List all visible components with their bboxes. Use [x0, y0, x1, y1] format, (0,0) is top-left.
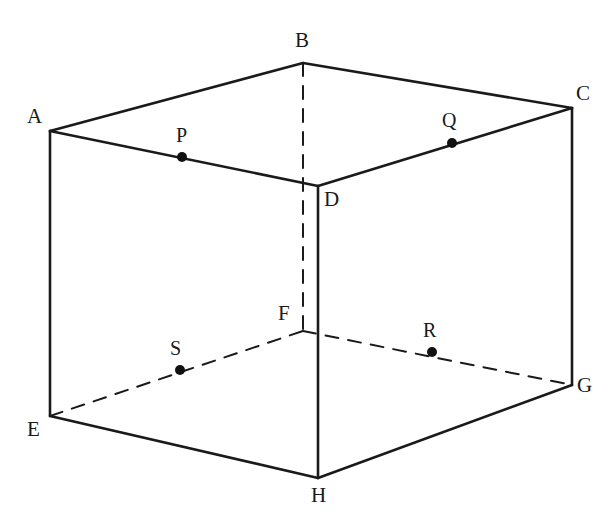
edge-FG-hidden: [303, 331, 572, 385]
point-label-P: P: [176, 125, 187, 145]
point-dot-P: [177, 152, 187, 162]
point-label-R: R: [423, 320, 436, 340]
vertex-label-H: H: [311, 485, 326, 506]
vertex-label-B: B: [295, 30, 309, 51]
point-dot-R: [427, 347, 437, 357]
vertex-label-E: E: [27, 419, 40, 440]
edge-AB: [50, 63, 303, 131]
marked-point-dots-group: [175, 138, 457, 375]
point-label-Q: Q: [442, 110, 456, 130]
vertex-label-D: D: [324, 189, 339, 210]
vertex-label-G: G: [577, 375, 592, 396]
vertex-label-C: C: [576, 83, 590, 104]
point-label-S: S: [170, 338, 181, 358]
point-dot-S: [175, 365, 185, 375]
edge-HG: [318, 385, 572, 478]
vertex-label-F: F: [278, 303, 290, 324]
solid-edges-group: [50, 63, 572, 478]
edge-BC: [303, 63, 572, 108]
dashed-edges-group: [50, 63, 572, 416]
edge-EH: [50, 416, 318, 478]
cube-diagram-figure: ABCDEFGH PQRS: [0, 0, 616, 530]
cube-wireframe-svg: [0, 0, 616, 530]
vertex-label-A: A: [27, 106, 42, 127]
point-dot-Q: [447, 138, 457, 148]
